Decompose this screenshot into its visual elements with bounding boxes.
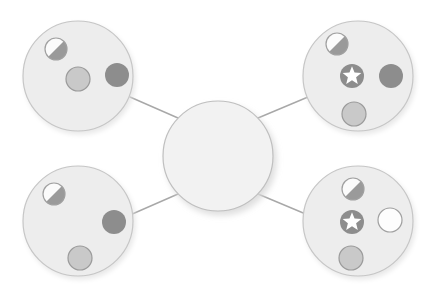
star-badge-marker[interactable] (340, 210, 364, 234)
edge-hub-bottom-left[interactable] (130, 194, 178, 215)
light-circle-marker[interactable] (342, 102, 366, 126)
edge-hub-top-right[interactable] (258, 97, 308, 118)
hub-node[interactable] (163, 101, 273, 211)
hub-body[interactable] (163, 101, 273, 211)
dark-circle-marker[interactable] (379, 64, 403, 88)
diagram-canvas (0, 0, 430, 298)
light-circle-marker[interactable] (68, 246, 92, 270)
edge-hub-bottom-right[interactable] (258, 194, 308, 215)
dark-circle-marker[interactable] (105, 63, 129, 87)
empty-circle-marker[interactable] (378, 208, 402, 232)
star-badge-marker[interactable] (340, 64, 364, 88)
node-bottom-right[interactable] (303, 166, 413, 276)
dark-circle-marker[interactable] (102, 210, 126, 234)
edge-hub-top-left[interactable] (130, 97, 178, 118)
node-link-diagram (0, 0, 430, 298)
light-circle-marker[interactable] (339, 246, 363, 270)
node-top-right[interactable] (303, 21, 413, 131)
node-bottom-left[interactable] (23, 166, 133, 276)
light-circle-marker[interactable] (66, 67, 90, 91)
node-top-left[interactable] (23, 21, 133, 131)
nodes-layer (23, 21, 413, 276)
